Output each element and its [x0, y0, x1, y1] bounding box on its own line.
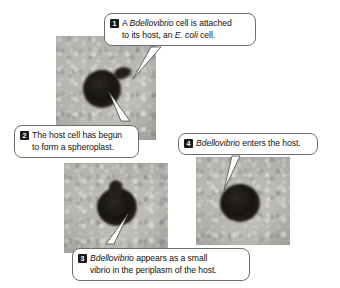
callout-3-line1-italic: Bdellovibrio	[90, 253, 134, 263]
callout-4-line1-post: enters the host.	[240, 138, 301, 148]
callout-1-line1-pre: A	[122, 18, 130, 28]
callout-2-line2-pre: to form a spheroplast.	[32, 142, 114, 152]
callout-1-line2-italic: E. coli	[175, 30, 198, 40]
micrograph-figure: 1A Bdellovibrio cell is attached to its …	[0, 0, 340, 288]
callout-2-badge: 2	[20, 131, 29, 140]
callout-1-line-1: 1A Bdellovibrio cell is attached	[110, 18, 248, 30]
callout-2-line1-pre: The host cell has begun	[32, 130, 122, 140]
callout-1-badge: 1	[110, 19, 119, 28]
callout-4-line-1: 4Bdellovibrio enters the host.	[184, 138, 310, 150]
callout-4[interactable]: 4Bdellovibrio enters the host.	[178, 133, 318, 155]
callout-1-line2-post: cell.	[198, 30, 215, 40]
callout-1[interactable]: 1A Bdellovibrio cell is attached to its …	[104, 13, 256, 46]
callout-1-line2-pre: to its host, an	[122, 30, 175, 40]
callout-1-line1-post: cell is attached	[173, 18, 231, 28]
leader-wedge-4	[224, 156, 240, 190]
leader-wedge-3	[106, 214, 128, 244]
leader-wedge-2	[109, 92, 130, 121]
callout-1-line1-italic: Bdellovibrio	[130, 18, 174, 28]
callout-2-line-2: to form a spheroplast.	[20, 142, 131, 154]
callout-3-badge: 3	[78, 254, 87, 263]
callout-3-line-1: 3Bdellovibrio appears as a small	[78, 253, 242, 265]
callout-3-line-2: vibrio in the periplasm of the host.	[78, 265, 242, 277]
callout-3-line1-post: appears as a small	[134, 253, 208, 263]
callout-2[interactable]: 2The host cell has begun to form a spher…	[14, 125, 139, 158]
callout-1-line-2: to its host, an E. coli cell.	[110, 30, 248, 42]
callout-4-line1-italic: Bdellovibrio	[196, 138, 240, 148]
leader-wedge-1	[133, 47, 161, 79]
callout-4-badge: 4	[184, 139, 193, 148]
callout-3[interactable]: 3Bdellovibrio appears as a small vibrio …	[72, 248, 250, 281]
callout-3-line2-pre: vibrio in the periplasm of the host.	[90, 265, 217, 275]
callout-2-line-1: 2The host cell has begun	[20, 130, 131, 142]
